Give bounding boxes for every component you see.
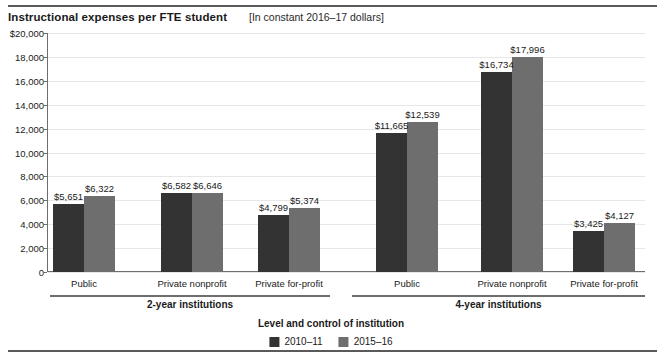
y-axis-tick — [43, 57, 47, 58]
bar — [289, 208, 320, 272]
x-axis-title: Level and control of institution — [258, 318, 404, 329]
legend-swatch-icon — [339, 337, 349, 347]
bar-value-label: $17,996 — [510, 44, 544, 55]
x-axis-group-label: 4-year institutions — [455, 299, 541, 310]
bar — [161, 193, 192, 272]
gridline — [48, 200, 645, 201]
y-axis-tick — [43, 33, 47, 34]
x-axis-group-label: 2-year institutions — [147, 299, 233, 310]
gridline — [48, 57, 645, 58]
bar — [84, 196, 115, 272]
y-axis-tick — [43, 81, 47, 82]
bar-value-label: $12,539 — [405, 109, 439, 120]
bar-value-label: $3,425 — [574, 218, 603, 229]
bar-value-label: $11,665 — [375, 120, 409, 131]
y-axis-tick — [43, 129, 47, 130]
chart-title: Instructional expenses per FTE student — [8, 11, 227, 23]
bar — [512, 57, 543, 272]
y-axis-tick — [43, 272, 47, 273]
x-axis-category-label: Private nonprofit — [157, 278, 226, 289]
legend-item: 2015–16 — [339, 336, 393, 347]
gridline — [48, 248, 645, 249]
y-axis-tick — [43, 224, 47, 225]
gridline — [48, 105, 645, 106]
gridline — [48, 176, 645, 177]
gridline — [48, 272, 645, 273]
chart-subtitle: [In constant 2016–17 dollars] — [249, 11, 384, 23]
y-axis-tick — [43, 248, 47, 249]
bar-value-label: $6,322 — [85, 183, 114, 194]
group-rule — [352, 295, 645, 297]
y-axis-labels: $20,00018,00016,00014,00012,00010,0008,0… — [0, 33, 44, 272]
y-axis-tick — [43, 105, 47, 106]
legend-label: 2010–11 — [284, 336, 322, 347]
bar — [376, 133, 407, 272]
gridline — [48, 153, 645, 154]
bar-value-label: $5,651 — [54, 191, 83, 202]
x-axis-category-label: Private nonprofit — [477, 278, 546, 289]
x-axis-category-label: Public — [71, 278, 97, 289]
legend-swatch-icon — [269, 337, 279, 347]
bar-value-label: $4,127 — [605, 210, 634, 221]
gridline — [48, 129, 645, 130]
bar — [481, 72, 512, 272]
bar-value-label: $6,646 — [193, 180, 222, 191]
legend-item: 2010–11 — [269, 336, 322, 347]
bar-value-label: $16,734 — [479, 59, 513, 70]
top-divider — [8, 5, 657, 7]
gridline — [48, 33, 645, 34]
y-axis-tick — [43, 153, 47, 154]
y-axis-tick-label: 6,000 — [20, 195, 44, 206]
y-axis-tick-label: 16,000 — [15, 75, 44, 86]
bar-value-label: $6,582 — [162, 180, 191, 191]
chart-legend: 2010–112015–16 — [269, 336, 392, 347]
bar — [573, 231, 604, 272]
plot-area: $5,651$6,582$4,799$11,665$16,734$3,425$6… — [47, 33, 645, 272]
bar — [192, 193, 223, 272]
y-axis-tick-label: 12,000 — [15, 123, 44, 134]
y-axis-tick-label: 14,000 — [15, 99, 44, 110]
group-rule — [50, 295, 330, 297]
y-axis-tick-label: 4,000 — [20, 219, 44, 230]
chart-figure: Instructional expenses per FTE student [… — [0, 0, 663, 360]
bar-value-label: $5,374 — [290, 195, 319, 206]
y-axis-tick-label: 8,000 — [20, 171, 44, 182]
bar — [53, 204, 84, 272]
bar-value-label: $4,799 — [259, 202, 288, 213]
x-axis-category-label: Private for-profit — [570, 278, 638, 289]
bar — [258, 215, 289, 272]
gridline — [48, 81, 645, 82]
y-axis-tick-label: 18,000 — [15, 51, 44, 62]
y-axis-tick-label: $20,000 — [10, 28, 44, 39]
y-axis-tick — [43, 176, 47, 177]
bar — [407, 122, 438, 272]
y-axis-tick-label: 10,000 — [15, 147, 44, 158]
y-axis-tick-label: 2,000 — [20, 243, 44, 254]
x-axis-category-label: Private for-profit — [255, 278, 323, 289]
x-axis-category-label: Public — [394, 278, 420, 289]
bottom-divider — [8, 350, 657, 352]
bar — [604, 223, 635, 272]
legend-label: 2015–16 — [354, 336, 393, 347]
y-axis-tick — [43, 200, 47, 201]
gridline — [48, 224, 645, 225]
